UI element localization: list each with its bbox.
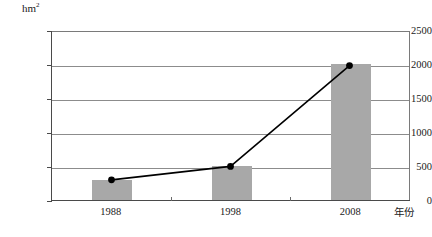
x-tick-label-1998: 1998 [196,206,266,218]
bar-1988 [92,180,132,200]
y-tick-label-2500: 2500 [386,26,432,36]
y-tick-mark-1000 [47,133,52,134]
x-minor-tick [290,197,291,201]
plot-area [51,31,410,201]
y-tick-label-2000: 2000 [386,60,432,70]
y-tick-mark-500 [47,167,52,168]
x-tick-label-2008: 2008 [315,206,385,218]
y-tick-label-500: 500 [386,162,432,172]
x-minor-tick [171,197,172,201]
line-series-path [112,66,350,180]
y-tick-mark-0 [47,201,52,202]
chart-container: hm2 05001000150020002500 198819982008 年份 [0,0,432,237]
bar-1998 [212,166,252,200]
bar-2008 [331,64,371,200]
y-axis-line [51,31,52,201]
y-tick-mark-1500 [47,99,52,100]
y-axis-unit-exponent: 2 [36,1,40,9]
y-tick-label-1500: 1500 [386,94,432,104]
y-tick-label-0: 0 [386,196,432,206]
y-tick-mark-2500 [47,31,52,32]
y-tick-label-1000: 1000 [386,128,432,138]
x-axis-title: 年份 [394,206,414,218]
y-axis-unit-label: hm2 [22,2,40,14]
y-tick-mark-2000 [47,65,52,66]
y-axis-unit-base: hm [22,2,36,14]
x-tick-label-1988: 1988 [76,206,146,218]
x-axis-line [51,200,410,201]
